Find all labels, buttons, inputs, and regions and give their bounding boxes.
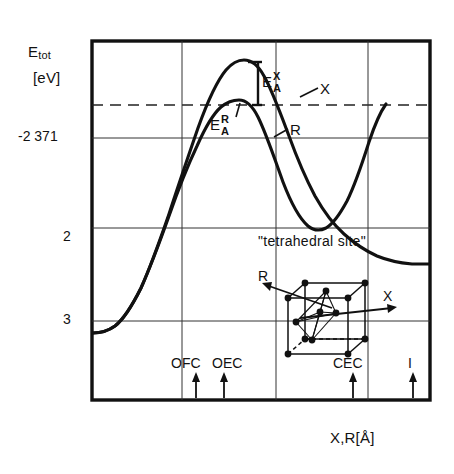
- x-marker-label-ofc: OFC: [171, 355, 201, 371]
- ea-x-superscript: X: [273, 70, 280, 82]
- ea-x-subscript: A: [273, 82, 281, 94]
- y-axis-title-sub: tot: [38, 49, 51, 61]
- y-axis-title-base: E: [28, 43, 38, 60]
- ea-r-superscript: R: [221, 113, 229, 125]
- ea-r-subscript: A: [221, 125, 229, 137]
- inset-axis-label-x: X: [383, 288, 392, 304]
- energy-path-figure: Etot [eV] -2 371 2 3 OFC OEC CEC I X,R[Å…: [0, 0, 454, 474]
- x-marker-label-i: I: [408, 355, 412, 371]
- inset-axis-label-r: R: [258, 268, 268, 284]
- y-tick-label-2: 3: [63, 311, 71, 327]
- activation-energy-r-label: ERA: [210, 116, 220, 133]
- plot-frame: [92, 41, 430, 400]
- y-axis-title: Etot: [28, 44, 51, 62]
- x-marker-label-oec: OEC: [212, 355, 242, 371]
- ea-r-base: E: [210, 116, 220, 133]
- curve-label-x: X: [320, 80, 330, 97]
- inset-title: "tetrahedral site": [258, 233, 366, 249]
- y-tick-label-1: 2: [63, 228, 71, 244]
- x-axis-title: X,R[Å]: [330, 430, 375, 446]
- activation-energy-x-label: EXA: [262, 73, 272, 90]
- ea-x-base: E: [262, 73, 272, 90]
- y-axis-unit: [eV]: [33, 70, 60, 86]
- curve-label-r: R: [290, 121, 301, 138]
- x-marker-label-cec: CEC: [333, 355, 363, 371]
- y-tick-label-0: -2 371: [18, 128, 58, 144]
